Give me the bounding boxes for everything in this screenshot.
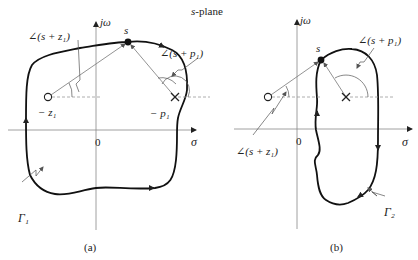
zero-angle-arc xyxy=(69,83,72,97)
pole-marker xyxy=(171,93,179,101)
pole-angle-arc-inner xyxy=(158,78,176,84)
panel-a: jω σ 0 s − z₁ − p₁ ∠(s + xyxy=(8,16,210,254)
zero-label: − z₁ xyxy=(38,106,56,118)
gamma-2-leader xyxy=(368,188,385,196)
pole-label: − p₁ xyxy=(150,107,170,119)
pole-angle-arc xyxy=(335,75,368,97)
contour-gamma-2 xyxy=(315,49,378,205)
gamma-1-label: Γ₁ xyxy=(17,211,29,225)
s-point xyxy=(125,39,132,46)
caption-a: (a) xyxy=(84,241,97,254)
s-label: s xyxy=(316,42,320,54)
sigma-axis-label: σ xyxy=(191,135,198,149)
zero-angle-arc xyxy=(286,86,289,97)
zero-marker xyxy=(44,93,51,100)
jw-axis-label: jω xyxy=(98,16,111,28)
s-label: s xyxy=(124,24,128,36)
vector-s-plus-z1 xyxy=(268,62,318,97)
vector-s-plus-p1 xyxy=(324,63,346,97)
sigma-axis-label: σ xyxy=(402,135,409,149)
pole-marker xyxy=(342,93,350,101)
pole-angle-label: ∠(s + p₁) xyxy=(160,47,203,60)
caption-b: (b) xyxy=(330,241,343,254)
zero-marker xyxy=(264,93,271,100)
s-point xyxy=(318,57,325,64)
origin-label: 0 xyxy=(95,136,101,148)
zero-angle-label: ∠(s + z₁) xyxy=(28,30,70,43)
plane-title: s-plane xyxy=(191,5,223,17)
pole-angle-label: ∠(s + p₁) xyxy=(358,34,401,47)
gamma-2-label: Γ₂ xyxy=(383,205,395,219)
zero-angle-label: ∠(s + z₁) xyxy=(236,145,278,158)
panel-b: jω σ 0 s ∠(s + z₁) ∠(s + p₁) Γ₂ xyxy=(234,14,412,254)
origin-label: 0 xyxy=(296,135,302,147)
s-plane-diagram: s-plane jω σ 0 xyxy=(0,0,418,260)
jw-axis-label: jω xyxy=(298,14,311,26)
